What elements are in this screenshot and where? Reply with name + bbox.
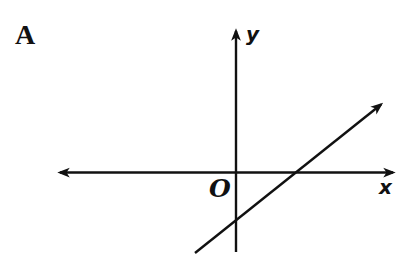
y-axis-label: y: [246, 22, 260, 46]
coordinate-plane: A y x O: [0, 0, 411, 258]
option-label: A: [15, 19, 36, 50]
x-axis-label: x: [378, 175, 393, 199]
figure-option-a: A y x O: [0, 0, 411, 258]
origin-label: O: [209, 174, 231, 203]
